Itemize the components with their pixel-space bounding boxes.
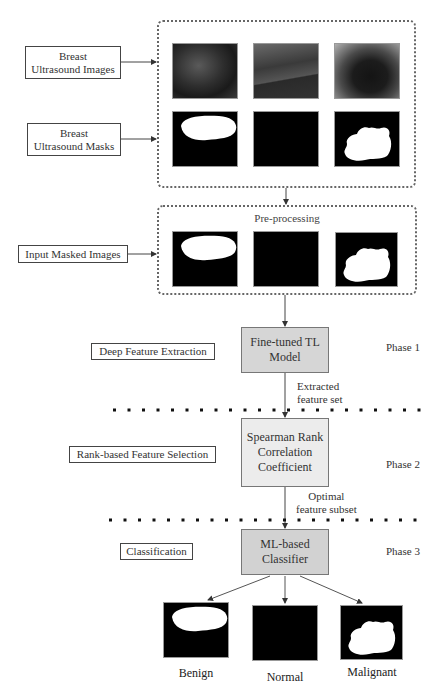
process-line: Classifier (262, 552, 308, 567)
label-line: Rank-based Feature Selection (77, 448, 208, 461)
input-masked-images-label: Input Masked Images (18, 245, 128, 263)
phase-1-label: Phase 1 (386, 341, 420, 353)
benign-lesion-shape (173, 232, 238, 287)
output-mask-normal (252, 605, 318, 661)
label-line: Deep Feature Extraction (99, 345, 207, 358)
ultrasound-image-benign (172, 43, 238, 99)
note-optimal-feature-subset: Optimal feature subset (296, 490, 357, 516)
note-line: feature set (297, 393, 343, 406)
note-line: Optimal (296, 490, 357, 503)
process-spearman-rank-correlation: Spearman Rank Correlation Coefficient (241, 418, 329, 487)
process-line: Coefficient (258, 460, 312, 475)
benign-lesion-shape (173, 112, 238, 167)
ultrasound-image-normal (253, 43, 319, 99)
label-line: Ultrasound Masks (34, 140, 114, 153)
stage-label-deep-feature-extraction: Deep Feature Extraction (91, 343, 215, 360)
ultrasound-image-malignant (334, 43, 400, 99)
mask-normal (253, 111, 319, 167)
note-line: Extracted (297, 380, 343, 393)
process-line: Spearman Rank (247, 430, 323, 445)
malignant-lesion-shape (341, 606, 403, 660)
label-line: Breast (59, 50, 87, 63)
phase-3-label: Phase 3 (386, 545, 420, 557)
output-mask-benign (163, 602, 229, 658)
process-fine-tuned-tl-model: Fine-tuned TL Model (241, 327, 329, 373)
input-ultrasound-masks-label: Breast Ultrasound Masks (27, 123, 121, 156)
input-ultrasound-images-label: Breast Ultrasound Images (25, 46, 121, 79)
note-line: feature subset (296, 503, 357, 516)
mask-benign (172, 111, 238, 167)
benign-lesion-shape (164, 603, 229, 658)
label-line: Classification (126, 545, 187, 558)
process-line: ML-based (260, 537, 309, 552)
arrow-to-benign (208, 576, 270, 600)
malignant-lesion-shape (336, 233, 398, 287)
stage-label-rank-based-feature-selection: Rank-based Feature Selection (69, 446, 216, 463)
preprocessed-mask-normal (253, 231, 319, 287)
phase-2-label: Phase 2 (386, 458, 420, 470)
label-line: Input Masked Images (25, 248, 120, 261)
process-line: Fine-tuned TL (250, 335, 319, 350)
arrow-to-malignant (300, 576, 362, 603)
preprocessed-mask-malignant (335, 232, 398, 287)
preprocessing-title: Pre-processing (157, 212, 417, 224)
note-extracted-feature-set: Extracted feature set (297, 380, 343, 406)
output-label-malignant: Malignant (336, 665, 408, 680)
label-line: Ultrasound Images (31, 63, 114, 76)
label-line: Breast (60, 127, 88, 140)
output-label-benign: Benign (163, 666, 229, 681)
process-ml-based-classifier: ML-based Classifier (241, 529, 329, 575)
process-line: Model (269, 350, 300, 365)
mask-malignant (334, 111, 400, 167)
preprocessed-mask-benign (172, 231, 238, 287)
output-mask-malignant (340, 605, 403, 660)
stage-label-classification: Classification (120, 543, 193, 560)
output-label-normal: Normal (252, 670, 318, 685)
process-line: Correlation (258, 445, 313, 460)
malignant-lesion-shape (335, 112, 400, 167)
